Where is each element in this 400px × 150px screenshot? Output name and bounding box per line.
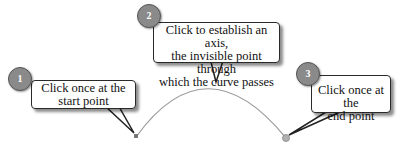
callout-step-1: Click once at the start point: [31, 80, 136, 109]
callout-1-line2: start point: [32, 95, 135, 108]
end-point: [283, 135, 290, 142]
step-3-badge: 3: [296, 62, 320, 86]
callout-3-line2: end point: [312, 110, 390, 123]
callout-2-line2: the invisible point through: [154, 50, 279, 76]
callout-1-tail: [104, 105, 134, 133]
start-point: [134, 134, 138, 138]
callout-step-2: Click to establish an axis, the invisibl…: [153, 22, 280, 63]
callout-step-3: Click once at the end point: [311, 75, 391, 113]
callout-3-line1: Click once at the: [312, 84, 390, 110]
callout-2-line3: which the curve passes: [154, 76, 279, 89]
step-2-badge: 2: [137, 4, 161, 28]
step-1-badge: 1: [8, 67, 32, 91]
arc-curve: [136, 89, 286, 138]
callout-2-line1: Click to establish an axis,: [154, 24, 279, 50]
